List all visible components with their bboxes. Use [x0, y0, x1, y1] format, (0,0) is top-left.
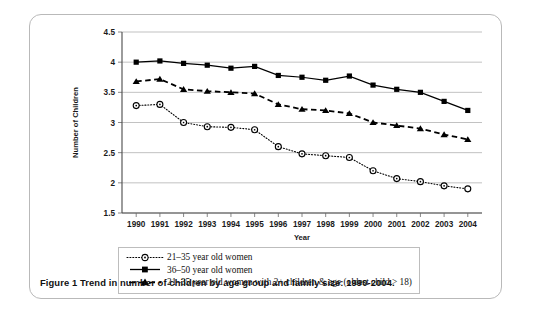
data-point-circle [465, 186, 471, 192]
ytick-label: 3 [110, 119, 115, 128]
legend-item-1: 36–50 year old women [125, 264, 413, 277]
data-point-square [394, 87, 399, 92]
data-point-circle-center [443, 185, 445, 187]
data-point-square [418, 90, 423, 95]
data-point-square [299, 75, 304, 80]
xtick-label: 1990 [127, 220, 146, 229]
data-point-square [276, 73, 281, 78]
xtick-label: 2000 [364, 220, 383, 229]
xtick-label: 1995 [246, 220, 265, 229]
data-point-square [157, 58, 162, 63]
line-chart: 1.522.533.544.51990199119921993199419951… [30, 15, 503, 260]
ytick-label: 4.5 [104, 28, 116, 37]
legend-item-0: 21–35 year old women [125, 251, 413, 264]
ytick-label: 1.5 [104, 209, 116, 218]
data-point-circle-center [277, 146, 279, 148]
xtick-label: 1992 [174, 220, 193, 229]
data-point-square [252, 64, 257, 69]
filled-square-solid-icon [125, 264, 165, 275]
chart-plot-area: 1.522.533.544.51990199119921993199419951… [30, 15, 503, 260]
data-point-circle-center [396, 178, 398, 180]
xtick-label: 1999 [340, 220, 359, 229]
data-point-circle-center [206, 126, 208, 128]
xtick-label: 2004 [459, 220, 478, 229]
data-point-square [370, 82, 375, 87]
xtick-label: 1991 [151, 220, 170, 229]
data-point-circle-center [301, 153, 303, 155]
legend-label-1: 36–50 year old women [167, 265, 252, 275]
ytick-label: 4 [110, 58, 115, 67]
data-point-circle-center [325, 155, 327, 157]
data-point-square [347, 73, 352, 78]
figure-container: 1.522.533.544.51990199119921993199419951… [29, 14, 502, 299]
series-line-1 [136, 61, 468, 110]
xtick-label: 2001 [388, 220, 407, 229]
data-point-square [228, 66, 233, 71]
open-circle-dotted-icon [125, 252, 165, 263]
data-point-circle-center [183, 122, 185, 124]
xtick-label: 1997 [293, 220, 312, 229]
data-point-circle-center [349, 157, 351, 159]
ytick-label: 3.5 [104, 88, 116, 97]
xtick-label: 1996 [269, 220, 288, 229]
legend-label-0: 21–35 year old women [167, 252, 252, 262]
y-axis-title: Number of Children [71, 87, 80, 158]
data-point-circle-center [159, 104, 161, 106]
data-point-square [181, 61, 186, 66]
ytick-label: 2 [110, 179, 115, 188]
xtick-label: 1993 [198, 220, 217, 229]
data-point-circle-center [372, 170, 374, 172]
data-point-circle-center [254, 129, 256, 131]
data-point-square [465, 108, 470, 113]
x-axis-title: Year [294, 233, 310, 242]
xtick-label: 2002 [411, 220, 430, 229]
figure-caption: Figure 1 Trend in number of children by … [40, 277, 495, 288]
ytick-label: 2.5 [104, 149, 116, 158]
xtick-label: 1994 [222, 220, 241, 229]
xtick-label: 1998 [317, 220, 336, 229]
data-point-circle-center [230, 126, 232, 128]
series-line-0 [136, 104, 468, 188]
data-point-square [205, 63, 210, 68]
data-point-circle-center [135, 105, 137, 107]
data-point-square [442, 99, 447, 104]
data-point-square [134, 60, 139, 65]
xtick-label: 2003 [435, 220, 454, 229]
data-point-circle-center [420, 181, 422, 183]
data-point-square [323, 78, 328, 83]
